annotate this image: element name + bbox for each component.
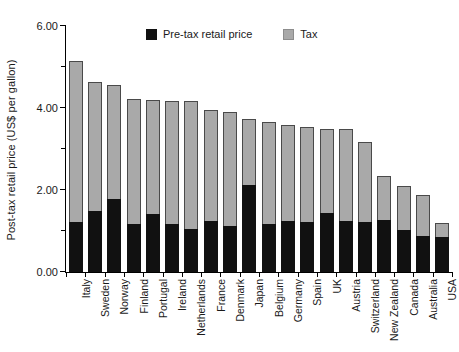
bar-segment-tax (107, 85, 121, 199)
bar-column (184, 101, 198, 272)
x-axis-tick (220, 272, 221, 277)
x-axis-tick-label: France (215, 279, 227, 312)
x-axis-tick (66, 272, 67, 277)
x-axis-tick (85, 272, 86, 277)
x-axis-tick-label: Ireland (176, 279, 188, 311)
bar-column (223, 112, 237, 272)
bar-segment-pretax (223, 226, 237, 272)
bar-column (435, 223, 449, 272)
x-axis-tick (143, 272, 144, 277)
x-axis-tick-label: Belgium (273, 279, 285, 317)
bar-segment-pretax (165, 224, 179, 272)
x-axis-tick (452, 272, 453, 277)
bar-segment-tax (262, 122, 276, 224)
y-axis-title-container: Post-tax retail price (US$ per gallon) (0, 0, 22, 300)
bar-column (281, 125, 295, 272)
bar-segment-pretax (320, 213, 334, 272)
bar-segment-tax (397, 186, 411, 230)
bar-column (377, 176, 391, 272)
bar-segment-tax (416, 195, 430, 236)
bar-segment-pretax (339, 221, 353, 272)
bar-segment-tax (88, 82, 102, 210)
bar-segment-tax (146, 100, 160, 214)
x-axis-tick-label: Italy (80, 279, 92, 298)
bar-segment-tax (281, 125, 295, 221)
bar-column (204, 110, 218, 272)
x-axis-ticks (66, 272, 452, 278)
bar-column (300, 127, 314, 272)
x-axis-tick (259, 272, 260, 277)
bar-segment-tax (242, 119, 256, 184)
bar-segment-pretax (262, 224, 276, 272)
x-axis-tick (240, 272, 241, 277)
y-axis-title: Post-tax retail price (US$ per gallon) (5, 59, 17, 240)
bar-segment-pretax (204, 221, 218, 272)
bar-segment-pretax (242, 185, 256, 272)
x-axis-tick-label: Switzerland (369, 279, 381, 333)
x-axis-tick-label: Finland (138, 279, 150, 313)
bar-segment-tax (223, 112, 237, 226)
bar-segment-pretax (281, 221, 295, 272)
bar-column (127, 99, 141, 272)
x-axis-tick (336, 272, 337, 277)
x-axis-tick-label: Germany (292, 279, 304, 322)
bar-segment-tax (358, 142, 372, 222)
x-axis-tick-label: USA (446, 279, 458, 301)
bar-segment-pretax (300, 222, 314, 272)
bar-segment-pretax (127, 224, 141, 272)
bar-segment-tax (69, 61, 83, 222)
bar-segment-tax (300, 127, 314, 222)
x-axis-tick (433, 272, 434, 277)
bar-segment-tax (435, 223, 449, 237)
x-axis-tick (163, 272, 164, 277)
bar-segment-pretax (377, 220, 391, 272)
x-axis-tick (317, 272, 318, 277)
x-axis-tick (182, 272, 183, 277)
bar-segment-pretax (146, 214, 160, 272)
x-axis-tick-label: Netherlands (195, 279, 207, 336)
bar-column (397, 186, 411, 272)
bar-segment-tax (320, 129, 334, 213)
bar-column (88, 82, 102, 272)
bar-column (69, 61, 83, 272)
bar-segment-pretax (435, 237, 449, 272)
bar-column (165, 101, 179, 272)
x-axis-tick-label: Australia (427, 279, 439, 320)
x-axis-tick-label: New Zealand (388, 279, 400, 341)
x-axis-tick-label: Sweden (99, 279, 111, 317)
x-axis-tick-label: Norway (118, 279, 130, 315)
x-axis-labels: ItalySwedenNorwayFinlandPortugalIrelandN… (66, 279, 452, 352)
bar-segment-pretax (416, 236, 430, 272)
y-axis-tick-label: 6.00 (37, 20, 58, 32)
bar-column (358, 142, 372, 272)
bar-segment-pretax (88, 211, 102, 273)
bar-column (146, 100, 160, 272)
x-axis-tick (298, 272, 299, 277)
stacked-bar-chart-figure: Post-tax retail price (US$ per gallon) 0… (0, 0, 459, 352)
x-axis-tick-label: Denmark (234, 279, 246, 322)
y-axis-tick-label: 0.00 (37, 266, 58, 278)
x-axis-tick (201, 272, 202, 277)
x-axis-tick (124, 272, 125, 277)
bar-column (339, 129, 353, 272)
x-axis-tick-label: Spain (311, 279, 323, 306)
x-axis-tick (105, 272, 106, 277)
y-axis-tick-label: 2.00 (37, 184, 58, 196)
x-axis-tick-label: Canada (408, 279, 420, 316)
x-axis-tick (356, 272, 357, 277)
bar-segment-tax (127, 99, 141, 224)
bar-segment-pretax (69, 222, 83, 272)
bar-segment-tax (339, 129, 353, 221)
bar-segment-pretax (358, 222, 372, 272)
x-axis-tick-label: Portugal (157, 279, 169, 318)
bar-segment-pretax (107, 199, 121, 272)
bar-column (416, 195, 430, 272)
x-axis-tick-label: UK (331, 279, 343, 294)
bar-segment-tax (184, 101, 198, 229)
bar-column (107, 85, 121, 272)
bar-column (320, 129, 334, 272)
x-axis-tick (375, 272, 376, 277)
bar-segment-pretax (397, 230, 411, 272)
bar-segment-pretax (184, 229, 198, 272)
bar-segment-tax (204, 110, 218, 221)
